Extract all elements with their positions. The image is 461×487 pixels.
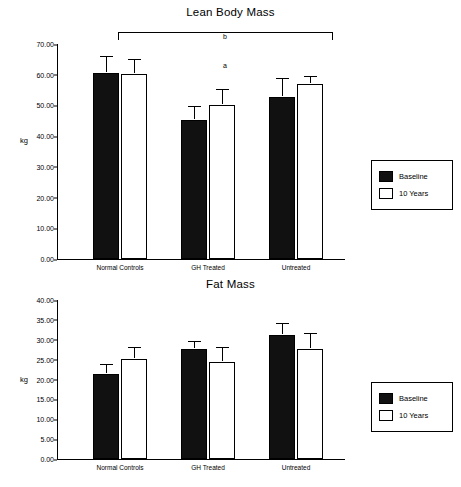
bar [93, 73, 119, 259]
legend-fat: Baseline 10 Years [371, 382, 453, 432]
chart-lean-body-mass: Lean Body Mass kg 0.0010.0020.0030.0040.… [0, 0, 461, 272]
y-tick-label: 30.00 [36, 336, 54, 343]
error-bar-cap [216, 347, 229, 348]
error-bar [282, 79, 283, 96]
y-tick-label: 40.00 [36, 133, 54, 140]
y-tick-label: 10.00 [36, 416, 54, 423]
y-tick-mark [54, 44, 57, 45]
error-bar [134, 348, 135, 358]
chart-title-lean: Lean Body Mass [0, 6, 461, 18]
error-bar-cap [188, 341, 201, 342]
bar-group: GH Treated [178, 44, 238, 259]
legend-swatch-baseline-icon [379, 393, 393, 404]
legend-swatch-baseline-icon [379, 171, 393, 182]
legend-swatch-ten-years-icon [379, 188, 393, 199]
y-tick-mark [54, 399, 57, 400]
bar [93, 374, 119, 459]
bar [181, 349, 207, 459]
error-bar [310, 334, 311, 348]
bar [121, 359, 147, 459]
legend-label-baseline: Baseline [399, 394, 428, 403]
y-axis-label-lean: kg [20, 136, 28, 145]
error-bar-cap [216, 89, 229, 90]
error-bar [106, 365, 107, 373]
legend-label-baseline: Baseline [399, 172, 428, 181]
x-tick-label: Untreated [236, 264, 356, 271]
error-bar [194, 342, 195, 349]
y-tick-mark [54, 419, 57, 420]
y-tick-label: 20.00 [36, 194, 54, 201]
error-bar-cap [304, 76, 317, 77]
y-tick-mark [54, 380, 57, 381]
bar-group: GH Treated [178, 300, 238, 459]
y-tick-mark [54, 105, 57, 106]
y-tick-label: 20.00 [36, 376, 54, 383]
legend-item-baseline: Baseline [379, 390, 444, 407]
y-tick-mark [54, 320, 57, 321]
y-tick-label: 5.00 [40, 436, 54, 443]
error-bar [222, 90, 223, 104]
bar [297, 349, 323, 459]
error-bar [282, 324, 283, 334]
y-tick-label: 15.00 [36, 396, 54, 403]
error-bar [310, 77, 311, 83]
bar [269, 335, 295, 459]
y-tick-mark [54, 167, 57, 168]
annotation-b: b [218, 33, 232, 40]
y-tick-label: 0.00 [40, 256, 54, 263]
bar [209, 105, 235, 259]
legend-swatch-ten-years-icon [379, 410, 393, 421]
legend-item-ten-years: 10 Years [379, 407, 444, 424]
bar [297, 84, 323, 259]
legend-item-baseline: Baseline [379, 168, 444, 185]
error-bar-cap [304, 333, 317, 334]
x-tick-label: Untreated [236, 464, 356, 471]
y-tick-mark [54, 300, 57, 301]
plot-area-fat: 0.005.0010.0015.0020.0025.0030.0035.0040… [57, 300, 345, 460]
y-tick-label: 50.00 [36, 102, 54, 109]
bar [209, 362, 235, 459]
error-bar-cap [276, 78, 289, 79]
error-bar [222, 348, 223, 362]
error-bar-cap [100, 364, 113, 365]
y-tick-mark [54, 136, 57, 137]
legend-item-ten-years: 10 Years [379, 185, 444, 202]
error-bar [106, 57, 107, 72]
legend-label-ten-years: 10 Years [399, 189, 428, 198]
y-tick-label: 35.00 [36, 316, 54, 323]
bar-group: Untreated [266, 44, 326, 259]
y-tick-label: 0.00 [40, 456, 54, 463]
legend-lean: Baseline 10 Years [371, 160, 453, 210]
y-tick-mark [54, 340, 57, 341]
chart-title-fat: Fat Mass [0, 278, 461, 290]
chart-fat-mass: Fat Mass kg 0.005.0010.0015.0020.0025.00… [0, 272, 461, 487]
y-tick-label: 25.00 [36, 356, 54, 363]
bar [181, 120, 207, 259]
y-tick-mark [54, 198, 57, 199]
error-bar-cap [128, 59, 141, 60]
error-bar [134, 60, 135, 73]
y-tick-mark [54, 459, 57, 460]
error-bar-cap [100, 56, 113, 57]
error-bar-cap [128, 347, 141, 348]
error-bar [194, 107, 195, 119]
bar-group: Untreated [266, 300, 326, 459]
y-tick-mark [54, 228, 57, 229]
legend-label-ten-years: 10 Years [399, 411, 428, 420]
y-tick-label: 40.00 [36, 297, 54, 304]
error-bar-cap [276, 323, 289, 324]
bar-group: Normal Controls [90, 300, 150, 459]
y-tick-mark [54, 75, 57, 76]
error-bar-cap [188, 106, 201, 107]
bar-group: Normal Controls [90, 44, 150, 259]
plot-area-lean: 0.0010.0020.0030.0040.0050.0060.0070.00N… [57, 44, 345, 260]
y-axis-label-fat: kg [20, 375, 28, 384]
y-tick-label: 70.00 [36, 41, 54, 48]
bar [269, 97, 295, 259]
y-tick-label: 60.00 [36, 71, 54, 78]
y-tick-mark [54, 259, 57, 260]
y-tick-mark [54, 439, 57, 440]
annotation-a: a [218, 62, 232, 69]
y-tick-mark [54, 360, 57, 361]
y-tick-label: 10.00 [36, 225, 54, 232]
